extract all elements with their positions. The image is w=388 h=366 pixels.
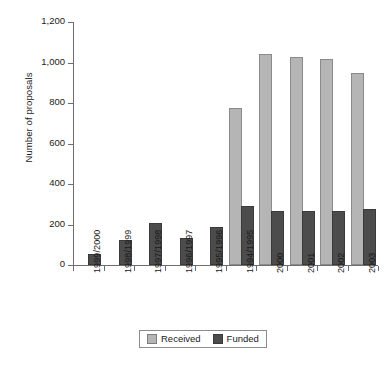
bar-group	[76, 22, 100, 265]
x-axis-tick-label: 1996/1997	[184, 230, 194, 273]
bar-group	[320, 22, 344, 265]
y-axis-tick-label: 1,200	[41, 15, 65, 26]
bar-group	[137, 22, 161, 265]
y-axis-tick-mark	[68, 22, 73, 23]
x-axis-tick-label: 2000	[275, 253, 285, 273]
legend-label-funded: Funded	[227, 333, 259, 344]
x-axis-tick-mark	[104, 266, 105, 271]
y-axis-tick-mark	[68, 225, 73, 226]
y-axis-tick-mark	[68, 144, 73, 145]
x-axis-tick-mark	[73, 266, 74, 271]
y-axis-tick-label: 800	[49, 96, 65, 107]
y-axis-tick-label: 400	[49, 177, 65, 188]
y-axis-line	[73, 22, 74, 266]
x-axis-tick-label: 2003	[367, 253, 377, 273]
x-axis-tick-mark	[226, 266, 227, 271]
bar-group	[198, 22, 222, 265]
y-axis-title: Number of proposals	[23, 28, 34, 208]
bar-group	[259, 22, 283, 265]
bar-group	[107, 22, 131, 265]
bar-group	[351, 22, 375, 265]
bar-group	[229, 22, 253, 265]
x-axis-tick-label: 1999/2000	[92, 230, 102, 273]
chart-legend: Received Funded	[139, 330, 267, 348]
plot-area: 02004006008001,0001,200	[73, 22, 378, 266]
bar-group	[168, 22, 192, 265]
legend-item-funded[interactable]: Funded	[213, 333, 259, 344]
x-axis-tick-label: 2001	[306, 253, 316, 273]
y-axis-tick: 1,000	[27, 63, 73, 64]
y-axis-tick: 600	[27, 144, 73, 145]
y-axis-tick: 400	[27, 184, 73, 185]
y-axis-tick-mark	[68, 103, 73, 104]
x-axis-tick-mark	[134, 266, 135, 271]
y-axis-tick: 1,200	[27, 22, 73, 23]
bar-group	[290, 22, 314, 265]
y-axis-tick-label: 200	[49, 218, 65, 229]
x-axis-tick-label: 1998/1999	[123, 230, 133, 273]
y-axis-tick: 800	[27, 103, 73, 104]
y-axis-tick-label: 1,000	[41, 56, 65, 67]
y-axis-tick-mark	[68, 63, 73, 64]
legend-swatch-funded-icon	[213, 334, 223, 344]
y-axis-tick: 200	[27, 225, 73, 226]
x-axis-tick-mark	[378, 266, 379, 271]
y-axis-tick-label: 0	[60, 258, 65, 269]
x-axis-tick-label: 1995/1996	[214, 230, 224, 273]
x-axis-tick-label: 2002	[336, 253, 346, 273]
y-axis-tick: 0	[27, 265, 73, 266]
x-axis-tick-mark	[317, 266, 318, 271]
x-axis-tick-label: 1994/1995	[245, 230, 255, 273]
y-axis-tick-label: 600	[49, 137, 65, 148]
x-axis-tick-mark	[287, 266, 288, 271]
legend-swatch-received-icon	[147, 334, 157, 344]
legend-item-received[interactable]: Received	[147, 333, 201, 344]
legend-label-received: Received	[161, 333, 201, 344]
y-axis-tick-mark	[68, 184, 73, 185]
x-axis-tick-mark	[195, 266, 196, 271]
x-axis-tick-label: 1997/1998	[153, 230, 163, 273]
bar-chart: Number of proposals 02004006008001,0001,…	[0, 0, 388, 366]
x-axis-tick-mark	[256, 266, 257, 271]
x-axis-tick-mark	[165, 266, 166, 271]
x-axis-tick-mark	[348, 266, 349, 271]
